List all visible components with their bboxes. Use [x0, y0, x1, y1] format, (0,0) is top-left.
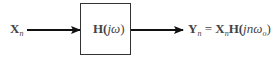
equals-sign: =: [205, 21, 212, 36]
output-symbol: Y: [188, 21, 197, 36]
block-func: H(: [93, 21, 107, 36]
input-symbol: X: [10, 21, 19, 36]
rhs-close: ): [266, 21, 270, 36]
block-close: ): [120, 21, 124, 36]
output-subscript: n: [197, 29, 201, 38]
rhs-arg: jnω: [243, 21, 262, 36]
output-label: Yn = XnH(jnωo): [188, 21, 271, 38]
rhs-func: H(: [229, 21, 243, 36]
block-arg: jω: [107, 21, 120, 36]
input-label: Xn: [10, 21, 23, 38]
rhs-symbol: X: [215, 21, 224, 36]
input-subscript: n: [19, 29, 23, 38]
block-label: H(jω): [93, 21, 125, 37]
